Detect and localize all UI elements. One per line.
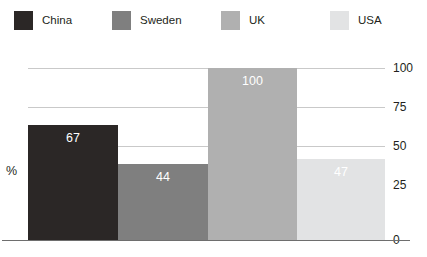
legend-label-uk: UK (249, 11, 265, 30)
legend-swatch-sweden-icon (112, 11, 131, 30)
bar-china[interactable]: 67 (28, 125, 118, 240)
y-axis-labels: 100 75 50 25 0 (393, 0, 427, 257)
legend-item-sweden[interactable]: Sweden (112, 10, 182, 30)
bar-chart-figure: China Sweden UK USA % 67 44 (0, 0, 427, 257)
bar-value-uk: 100 (208, 75, 297, 88)
bar-usa[interactable]: 47 (297, 159, 385, 240)
legend-swatch-uk-icon (221, 11, 240, 30)
chart-legend: China Sweden UK USA (0, 0, 427, 40)
bar-value-sweden: 44 (118, 171, 208, 184)
bar-value-china: 67 (28, 132, 118, 145)
legend-label-sweden: Sweden (140, 11, 182, 30)
plot-area: 67 44 100 47 (28, 68, 385, 240)
bar-group: 67 44 100 47 (28, 68, 385, 240)
y-tick-100: 100 (393, 62, 413, 74)
legend-item-china[interactable]: China (14, 10, 72, 30)
legend-swatch-china-icon (14, 11, 33, 30)
bar-uk[interactable]: 100 (208, 68, 297, 240)
legend-swatch-usa-icon (330, 11, 349, 30)
legend-item-usa[interactable]: USA (330, 10, 382, 30)
y-tick-75: 75 (393, 101, 406, 113)
y-axis-title: % (6, 165, 17, 178)
y-tick-50: 50 (393, 140, 406, 152)
x-axis-baseline (2, 240, 410, 241)
bar-value-usa: 47 (297, 166, 385, 179)
legend-label-china: China (42, 11, 72, 30)
bar-sweden[interactable]: 44 (118, 164, 208, 240)
legend-item-uk[interactable]: UK (221, 10, 265, 30)
y-tick-25: 25 (393, 179, 406, 191)
legend-label-usa: USA (358, 11, 382, 30)
